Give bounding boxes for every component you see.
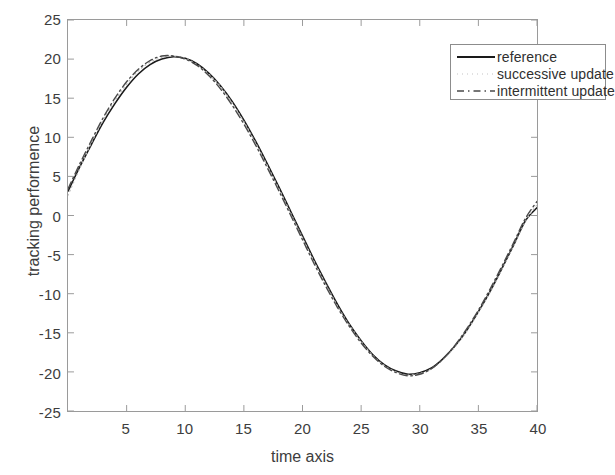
- legend-entry-intermittent-update: intermittent update: [451, 82, 605, 99]
- series-line-intermittent-update: [68, 55, 537, 375]
- plot-area: reference successive update intermittent…: [67, 19, 538, 412]
- x-tick-label: 40: [516, 421, 560, 436]
- y-axis-title: tracking performence: [25, 81, 43, 321]
- legend-line-sample-dotted: [455, 67, 497, 81]
- x-tick-label: 35: [457, 421, 501, 436]
- legend-label-reference: reference: [497, 50, 557, 64]
- series-line-reference: [68, 57, 537, 375]
- legend-entry-reference: reference: [451, 48, 605, 65]
- y-tick-label: -20: [5, 366, 61, 381]
- x-tick-label: 25: [339, 421, 383, 436]
- legend-label-successive-update: successive update: [497, 67, 614, 81]
- y-tick-label: -25: [5, 405, 61, 420]
- legend-entry-successive-update: successive update: [451, 65, 605, 82]
- y-tick-label: 25: [5, 12, 61, 27]
- x-tick-label: 10: [163, 421, 207, 436]
- x-tick-label: 5: [104, 421, 148, 436]
- legend-line-sample-dashdot: [455, 84, 497, 98]
- y-tick-label: 20: [5, 51, 61, 66]
- legend-box: reference successive update intermittent…: [450, 44, 606, 100]
- x-tick-label: 15: [222, 421, 266, 436]
- x-tick-label: 30: [398, 421, 442, 436]
- y-tick-label: -15: [5, 326, 61, 341]
- x-axis-tick-labels: 510152025303540: [67, 421, 538, 441]
- series-line-successive-update: [68, 56, 537, 375]
- x-axis-title: time axis: [67, 448, 538, 466]
- x-tick-label: 20: [281, 421, 325, 436]
- legend-label-intermittent-update: intermittent update: [497, 84, 615, 98]
- legend-line-sample-solid: [455, 50, 497, 64]
